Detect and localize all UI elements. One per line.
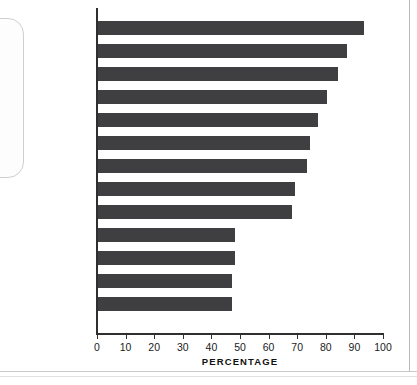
bar xyxy=(98,90,327,104)
bar xyxy=(98,274,232,288)
plot-area: ItalyAustraliaSwedenGermanySpainUnited K… xyxy=(98,8,384,333)
bar-row: France xyxy=(98,201,384,224)
chart-page: ItalyAustraliaSwedenGermanySpainUnited K… xyxy=(0,0,417,385)
x-axis-tick xyxy=(154,333,155,339)
bar xyxy=(98,21,364,35)
bar-chart: ItalyAustraliaSwedenGermanySpainUnited K… xyxy=(0,0,417,372)
x-axis-tick-label: 50 xyxy=(234,341,246,353)
bar-row: Spain xyxy=(98,109,384,132)
x-axis-tick xyxy=(326,333,327,339)
x-axis-title: PERCENTAGE xyxy=(96,356,384,367)
x-axis-tick xyxy=(354,333,355,339)
x-axis-tick xyxy=(126,333,127,339)
x-axis-tick-label: 70 xyxy=(291,341,303,353)
bar xyxy=(98,67,338,81)
page-rule-bottom xyxy=(0,371,417,372)
x-axis-tick-label: 40 xyxy=(206,341,218,353)
bar xyxy=(98,228,235,242)
bar-row: Brazil xyxy=(98,270,384,293)
x-axis-tick-label: 80 xyxy=(320,341,332,353)
bar xyxy=(98,44,347,58)
bar xyxy=(98,205,292,219)
x-axis-tick xyxy=(211,333,212,339)
x-axis-tick-label: 30 xyxy=(177,341,189,353)
bar-row: United States xyxy=(98,224,384,247)
bar-row: Turkey xyxy=(98,155,384,178)
bar xyxy=(98,136,310,150)
bar-row: Sweden xyxy=(98,63,384,86)
bar-row: Canada xyxy=(98,178,384,201)
bar-row: United Kingdom xyxy=(98,132,384,155)
x-axis-tick xyxy=(240,333,241,339)
bar-row: Australia xyxy=(98,40,384,63)
x-axis-tick xyxy=(269,333,270,339)
x-axis-tick xyxy=(297,333,298,339)
x-axis-tick-label: 20 xyxy=(148,341,160,353)
x-axis-tick-label: 100 xyxy=(374,341,392,353)
x-axis-tick-label: 90 xyxy=(349,341,361,353)
bar-row: Thailand xyxy=(98,293,384,316)
x-axis-tick xyxy=(183,333,184,339)
page-rule-bottom-secondary xyxy=(0,376,417,377)
bar-row: Mexico xyxy=(98,247,384,270)
x-axis-tick-label: 60 xyxy=(263,341,275,353)
x-axis-tick xyxy=(97,333,98,339)
x-axis-tick xyxy=(383,333,384,339)
x-axis-tick-label: 0 xyxy=(94,341,100,353)
bar-row: Germany xyxy=(98,86,384,109)
bar xyxy=(98,182,295,196)
page-border-right xyxy=(409,0,410,372)
bar-row: Italy xyxy=(98,17,384,40)
bar xyxy=(98,251,235,265)
bar xyxy=(98,297,232,311)
bar xyxy=(98,159,307,173)
bar xyxy=(98,113,318,127)
x-axis-tick-label: 10 xyxy=(120,341,132,353)
